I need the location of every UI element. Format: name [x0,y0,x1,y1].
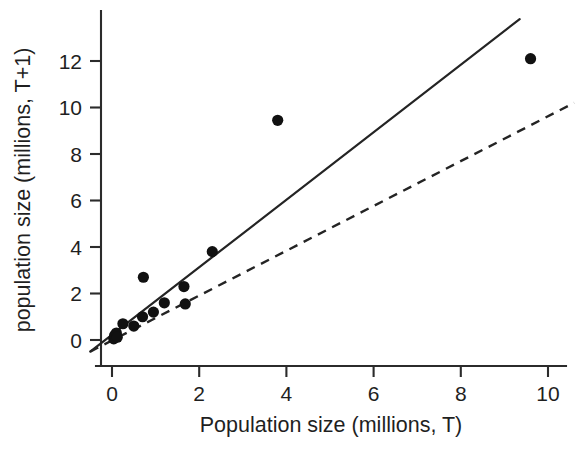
data-point [138,272,149,283]
data-point [207,246,218,257]
replacement-reference-line [90,103,574,352]
x-tick-label: 6 [368,382,380,405]
y-tick-label: 0 [70,329,82,352]
x-tick-label: 10 [536,382,559,405]
data-point [112,332,123,343]
data-point [525,53,536,64]
y-tick-label: 12 [59,50,82,73]
data-point [180,298,191,309]
data-point [137,311,148,322]
x-tick-label: 2 [193,382,205,405]
y-tick-label: 4 [70,236,82,259]
data-point [272,115,283,126]
y-tick-label: 2 [70,282,82,305]
scatter-plot-canvas: 024681012 0246810 Population size (milli… [0,0,587,456]
y-axis-ticks: 024681012 [59,50,101,352]
x-axis-title: Population size (millions, T) [200,413,462,437]
data-point [128,320,139,331]
x-tick-label: 0 [106,382,118,405]
x-tick-label: 8 [455,382,467,405]
x-axis-ticks: 0246810 [106,366,560,405]
y-axis-title: population size (millions, T+1) [11,48,35,333]
data-point [117,318,128,329]
y-tick-label: 8 [70,143,82,166]
data-points [108,53,536,344]
y-tick-label: 6 [70,189,82,212]
chart-figure: 024681012 0246810 Population size (milli… [0,0,587,456]
data-point [178,281,189,292]
x-tick-label: 4 [281,382,293,405]
data-point [159,297,170,308]
fitted-regression-line [90,19,519,351]
data-point [148,307,159,318]
y-tick-label: 10 [59,96,82,119]
